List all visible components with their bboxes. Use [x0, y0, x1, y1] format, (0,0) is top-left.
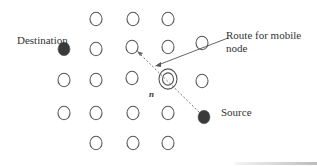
mobile-node-outer-ring — [159, 69, 177, 89]
route-label-line1: Route for mobile — [226, 29, 301, 41]
network-node — [127, 106, 139, 119]
node-grid — [58, 12, 210, 149]
network-diagram — [0, 0, 317, 166]
network-node — [58, 73, 70, 86]
network-node — [196, 74, 208, 87]
route-pointer-line — [158, 38, 228, 65]
source-node — [198, 110, 210, 123]
network-node — [162, 40, 174, 53]
network-node — [127, 136, 139, 149]
network-node — [90, 136, 102, 149]
pointer-arrowhead — [155, 62, 161, 67]
network-node — [126, 40, 138, 53]
source-label: Source — [221, 106, 252, 118]
network-node — [162, 136, 174, 149]
network-node — [90, 106, 102, 119]
network-node — [90, 42, 102, 55]
destination-label: Destination — [17, 34, 68, 46]
bottom-rule — [235, 162, 317, 165]
route-arrowhead — [137, 51, 143, 56]
network-node — [58, 106, 70, 119]
route-label-line2: node — [226, 42, 247, 54]
network-node — [162, 106, 174, 119]
network-node — [126, 71, 138, 84]
network-node — [90, 73, 102, 86]
mobile-node-label: n — [149, 88, 154, 100]
network-node — [127, 12, 139, 25]
network-node — [162, 12, 174, 25]
mobile-node — [163, 73, 174, 85]
network-node — [90, 12, 102, 25]
